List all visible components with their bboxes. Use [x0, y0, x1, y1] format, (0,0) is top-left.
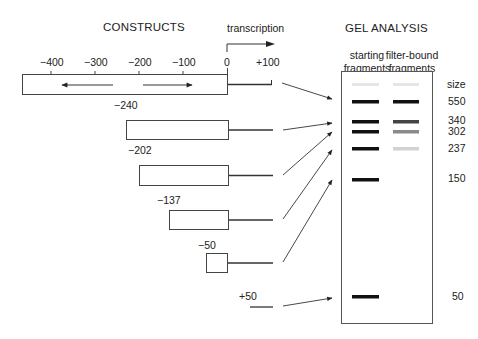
band-150-lane1: [352, 178, 379, 182]
construct-minus-137: [170, 211, 274, 230]
band-550-lane1: [352, 100, 379, 104]
construct-full-ltr: [23, 68, 273, 95]
band-340-lane2: [393, 120, 419, 124]
gel-box: [342, 72, 433, 324]
band-302-lane2: [393, 130, 419, 134]
band-550-lane2: [393, 100, 419, 104]
band-237-lane1: [352, 147, 379, 151]
construct-minus-240: [127, 121, 274, 140]
band-50-lane1: [352, 295, 379, 299]
construct-minus-202: [140, 166, 274, 186]
band-marker-lane1: [352, 83, 379, 86]
band-marker-lane2: [393, 83, 419, 86]
band-302-lane1: [352, 130, 379, 134]
band-237-lane2: [393, 147, 419, 151]
construct-minus-50: [207, 254, 274, 273]
diagram-graphics: [0, 0, 478, 339]
band-340-lane1: [352, 120, 379, 124]
transcription-arrow-icon: [227, 41, 275, 52]
mapping-arrows: [282, 83, 332, 306]
